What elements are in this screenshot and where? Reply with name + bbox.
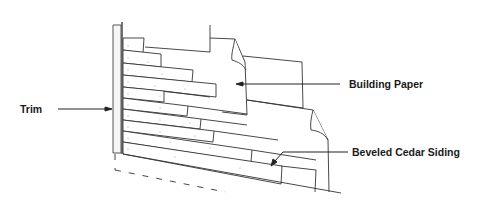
trim-callout-arrow: [58, 107, 112, 111]
siding-diagram: Trim Building Paper Beveled Cedar Siding: [0, 0, 504, 210]
trim-label: Trim: [20, 103, 42, 115]
trim-board: [113, 22, 122, 154]
siding-courses: [123, 38, 282, 184]
building-paper-label: Building Paper: [349, 78, 423, 90]
building-paper-callout-arrow: [236, 82, 340, 86]
siding-illustration: [0, 0, 504, 210]
beveled-cedar-siding-label: Beveled Cedar Siding: [352, 146, 460, 158]
